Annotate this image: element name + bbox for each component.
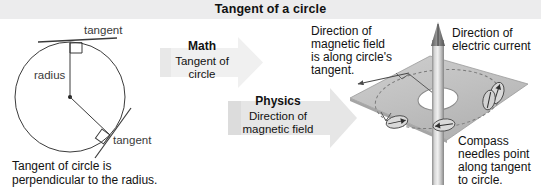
wire-lower-segment <box>432 99 444 185</box>
math-arrow-line2: circle <box>156 68 248 82</box>
math-arrow-line1: Tangent of <box>156 55 248 69</box>
current-note-line2: electric current <box>452 39 531 53</box>
radius-line-lower <box>70 97 110 135</box>
tangent-of-a-circle-figure: Tangent of a circle <box>0 0 541 194</box>
math-caption-line2: perpendicular to the radius. <box>12 173 157 187</box>
physics-arrow-heading: Physics <box>228 94 328 108</box>
tangent-line-lower <box>95 108 131 158</box>
label-tangent-lower: tangent <box>113 134 151 148</box>
tangent-line-top <box>38 38 117 42</box>
math-arrow-heading: Math <box>160 39 244 53</box>
wire-upper-segment <box>432 40 444 100</box>
right-angle-marker-top <box>70 43 82 53</box>
label-tangent-top: tangent <box>84 24 122 38</box>
magnetic-field-note-line4: tangent. <box>311 63 354 77</box>
math-caption-line1: Tangent of circle is <box>12 159 111 173</box>
physics-arrow-line2: magnetic field <box>224 123 332 137</box>
label-radius: radius <box>34 69 65 83</box>
physics-arrow-line1: Direction of <box>224 110 332 124</box>
compass-note-line4: to circle. <box>458 173 503 187</box>
